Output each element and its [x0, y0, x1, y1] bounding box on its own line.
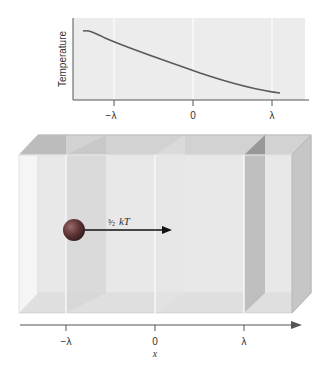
energy-kT: kT [119, 215, 131, 227]
box-top-left-bevel [19, 135, 66, 155]
axis-xlabel: x [152, 348, 158, 359]
diagram: −λ 0 λ Temperature ³⁄₂ kT [0, 0, 329, 373]
graph-panel [73, 18, 305, 100]
energy-fraction: ³⁄₂ [108, 218, 115, 227]
box-right-side [292, 135, 311, 313]
position-axis: −λ 0 λ x [20, 321, 302, 359]
axis-tick-label-lambda: λ [242, 336, 247, 347]
graph-tick-label-zero: 0 [190, 110, 196, 121]
graph-tick-label-lambda: λ [270, 110, 275, 121]
axis-tick-label-zero: 0 [152, 336, 158, 347]
axis-arrowhead-icon [291, 321, 302, 329]
axis-tick-label-neg-lambda: −λ [61, 336, 72, 347]
temperature-graph: −λ 0 λ Temperature [57, 18, 309, 121]
graph-tick-label-neg-lambda: −λ [106, 110, 117, 121]
gas-molecule [63, 219, 85, 241]
graph-ylabel: Temperature [57, 30, 68, 87]
gas-box: ³⁄₂ kT [19, 135, 311, 313]
